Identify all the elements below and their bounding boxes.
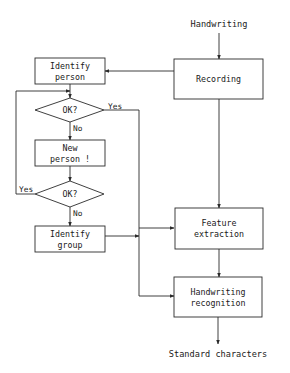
node-ok2-decision: OK? [35, 181, 104, 207]
edge-label-ok2-yes: Yes [19, 185, 33, 194]
node-feature-extraction-line2: extraction [194, 229, 244, 239]
node-feature-extraction-line1: Feature [202, 218, 237, 228]
edge-label-ok1-yes: Yes [108, 102, 122, 111]
node-new-person-line1: New [63, 143, 78, 153]
flowchart: Handwriting Recording Identify person OK… [0, 0, 290, 373]
node-identify-person-line1: Identify [50, 61, 90, 71]
node-new-person-line2: person ! [50, 154, 90, 164]
edge-label-ok1-no: No [73, 124, 83, 133]
edge-label-ok2-no: No [73, 209, 83, 218]
node-feature-extraction: Feature extraction [175, 208, 263, 249]
node-ok2-label: OK? [63, 189, 78, 199]
node-recording: Recording [174, 59, 263, 99]
edge-ok1-yes [104, 110, 139, 287]
node-handwriting-recognition: Handwriting recognition [174, 277, 262, 317]
node-recording-label: Recording [196, 74, 241, 84]
node-new-person: New person ! [35, 140, 105, 166]
node-identify-group: Identify group [35, 226, 105, 252]
node-handwriting-recognition-line1: Handwriting [191, 287, 246, 297]
input-label: Handwriting [191, 19, 248, 29]
output-label: Standard characters [169, 349, 267, 359]
node-identify-person: Identify person [35, 58, 105, 84]
node-ok1-label: OK? [63, 105, 78, 115]
node-ok1-decision: OK? [35, 98, 104, 122]
node-handwriting-recognition-line2: recognition [191, 298, 246, 308]
node-identify-person-line2: person [55, 72, 85, 82]
node-identify-group-line1: Identify [50, 229, 90, 239]
node-identify-group-line2: group [58, 240, 83, 250]
